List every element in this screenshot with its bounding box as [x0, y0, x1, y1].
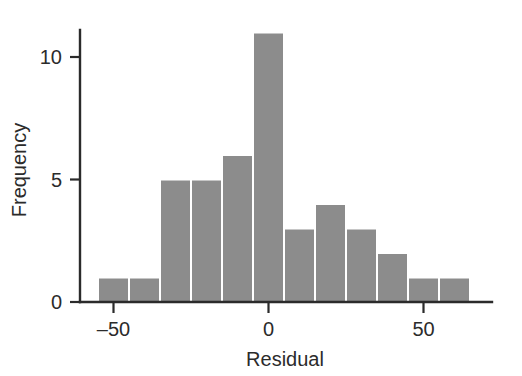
histogram-bar: [160, 180, 191, 303]
x-axis-tick-label: –50: [97, 318, 130, 340]
x-axis-tick-label: 0: [263, 318, 274, 340]
histogram-bar: [222, 155, 253, 302]
histogram-bar: [284, 229, 315, 303]
histogram-bar: [346, 229, 377, 303]
histogram-bar: [315, 204, 346, 302]
y-axis-title: Frequency: [8, 123, 30, 218]
histogram-bar: [191, 180, 222, 303]
histogram-bar: [439, 278, 470, 303]
histogram-bar: [129, 278, 160, 303]
y-axis-tick-label: 10: [40, 46, 62, 68]
y-axis-tick-label: 5: [51, 169, 62, 191]
histogram-bar: [253, 33, 284, 303]
residual-histogram-plot: 0510 –50050 Residual Frequency: [0, 0, 522, 376]
x-axis-tick-label: 50: [412, 318, 434, 340]
x-axis-title: Residual: [246, 348, 324, 370]
histogram-bar: [98, 278, 129, 303]
histogram-figure: 0510 –50050 Residual Frequency: [0, 0, 522, 376]
histogram-bar: [408, 278, 439, 303]
histogram-bar: [377, 253, 408, 302]
y-axis-tick-label: 0: [51, 291, 62, 313]
